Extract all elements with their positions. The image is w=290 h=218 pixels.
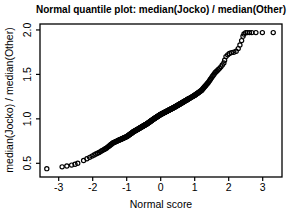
y-tick-label: 1.5 [21, 67, 33, 82]
x-tick-label: 3 [260, 181, 266, 193]
y-axis-ticks: 0.51.01.52.0 [21, 22, 40, 170]
data-point-outlier-high [240, 39, 244, 43]
x-tick-label: -3 [54, 181, 63, 193]
x-axis-label: Normal score [130, 198, 193, 210]
x-tick-label: -1 [122, 181, 131, 193]
y-tick-label: 0.5 [21, 156, 33, 171]
plot-box [40, 24, 282, 177]
y-tick-label: 2.0 [21, 22, 33, 37]
data-points-layer [45, 31, 276, 171]
qq-plot-figure: Normal quantile plot: median(Jocko) / me… [0, 0, 290, 218]
x-axis-ticks: -3-2-10123 [54, 177, 266, 193]
y-tick-label: 1.0 [21, 111, 33, 126]
x-tick-label: 2 [226, 181, 232, 193]
x-tick-label: -2 [88, 181, 97, 193]
data-point-outlier-low [45, 167, 49, 171]
data-point-outlier-low [60, 165, 64, 169]
data-point-outlier-low [65, 164, 69, 168]
qq-plot-svg: Normal quantile plot: median(Jocko) / me… [0, 0, 290, 218]
x-tick-label: 0 [158, 181, 164, 193]
data-point-outlier-high [271, 31, 275, 35]
y-axis-label: median(Jocko) / median(Other) [3, 27, 15, 172]
chart-title: Normal quantile plot: median(Jocko) / me… [36, 4, 286, 15]
x-tick-label: 1 [192, 181, 198, 193]
data-point-outlier-high [260, 31, 264, 35]
